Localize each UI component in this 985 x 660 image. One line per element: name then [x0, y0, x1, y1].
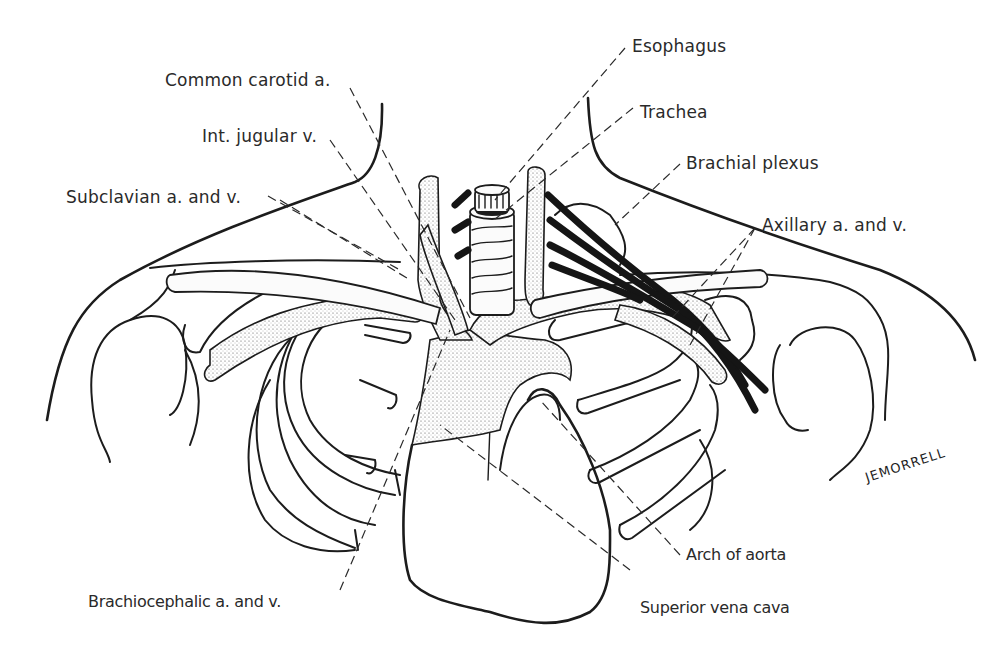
label-common-carotid: Common carotid a.	[165, 70, 331, 90]
label-brachial-plexus: Brachial plexus	[686, 153, 819, 173]
label-esophagus: Esophagus	[632, 36, 726, 56]
label-int-jugular: Int. jugular v.	[202, 126, 317, 146]
label-superior-vena-cava: Superior vena cava	[640, 598, 790, 617]
label-trachea: Trachea	[640, 102, 708, 122]
label-axillary: Axillary a. and v.	[762, 215, 907, 235]
trachea-esophagus	[470, 185, 514, 315]
label-subclavian: Subclavian a. and v.	[66, 187, 241, 207]
anatomy-illustration	[0, 0, 985, 660]
label-brachiocephalic: Brachiocephalic a. and v.	[88, 592, 281, 611]
label-arch-of-aorta: Arch of aorta	[686, 545, 786, 564]
right-ribs	[549, 303, 725, 539]
